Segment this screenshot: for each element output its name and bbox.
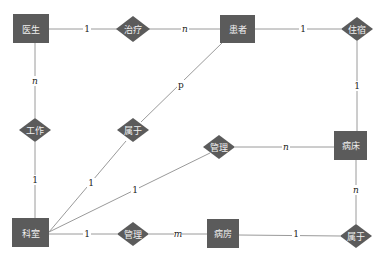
relationship-label: 住宿: [348, 24, 366, 35]
relationship-label: 属于: [347, 232, 365, 242]
cardinality-label: n: [32, 76, 38, 86]
relationship-belong-ward[interactable]: 属于: [340, 224, 372, 248]
line-ward-belong-ward: [239, 235, 340, 236]
line-department-manage-bed: [49, 153, 210, 232]
cardinality-label: 1: [84, 229, 90, 239]
entity-doctor[interactable]: 医生: [13, 14, 49, 43]
relationship-manage-ward[interactable]: 管理: [117, 222, 149, 246]
cardinality-label: 1: [32, 175, 38, 185]
entity-label: 病床: [342, 140, 360, 151]
entity-label: 科室: [22, 228, 40, 239]
cardinality-label: p: [178, 80, 184, 90]
relationship-label: 工作: [26, 125, 44, 136]
relationship-stay[interactable]: 住宿: [341, 17, 373, 41]
cardinality-label: 1: [354, 81, 360, 91]
cardinality-label: m: [174, 229, 183, 239]
cardinality-label: n: [283, 142, 289, 152]
entity-label: 医生: [22, 24, 40, 35]
entity-ward[interactable]: 病房: [207, 219, 239, 248]
cardinality-labels: 1n11n1p11nn1m1: [31, 24, 361, 239]
entity-department[interactable]: 科室: [12, 218, 49, 247]
entity-label: 病房: [214, 228, 232, 239]
cardinality-label: 1: [84, 24, 90, 34]
relationship-label: 管理: [210, 142, 228, 153]
cardinality-label: n: [182, 24, 188, 34]
relationship-label: 管理: [124, 229, 142, 240]
relationship-label: 属于: [124, 126, 142, 136]
cardinality-label: 1: [293, 229, 299, 239]
er-diagram: 1n11n1p11nn1m1 医生 患者 病床 科室 病房 治疗: [0, 0, 387, 258]
cardinality-label: 1: [88, 178, 94, 188]
relationship-work[interactable]: 工作: [19, 118, 51, 142]
cardinality-label: 1: [132, 185, 138, 195]
cardinality-label: 1: [300, 24, 306, 34]
entity-patient[interactable]: 患者: [220, 15, 255, 43]
entity-bed[interactable]: 病床: [334, 131, 367, 160]
entity-label: 患者: [229, 24, 247, 35]
connection-lines: [35, 29, 357, 236]
relationship-treat[interactable]: 治疗: [116, 16, 150, 42]
relationship-manage-bed[interactable]: 管理: [203, 135, 235, 159]
cardinality-label: n: [353, 185, 359, 195]
relationship-label: 治疗: [124, 24, 142, 35]
relationship-belong-patient[interactable]: 属于: [117, 118, 149, 142]
relationships: 治疗 住宿 工作 属于 管理 管理 属于: [19, 16, 373, 248]
